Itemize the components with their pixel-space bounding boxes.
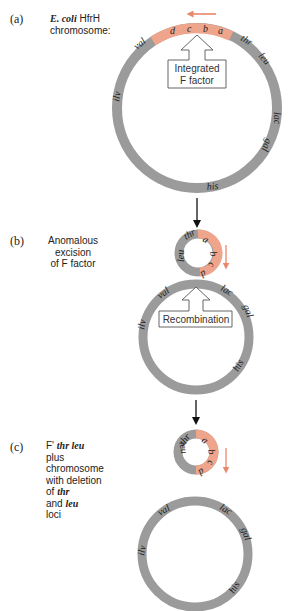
gene-his: his bbox=[206, 180, 219, 192]
gene-leu: leu bbox=[177, 441, 190, 455]
gene-lac: lac bbox=[272, 112, 283, 125]
gene-leu: leu bbox=[175, 250, 186, 262]
gene-c: c bbox=[187, 23, 192, 34]
callout-label-line1: Integrated bbox=[174, 63, 219, 74]
integrated-f-callout: Integrated F factor bbox=[168, 35, 226, 88]
diagram-canvas: d c b a val thr leu lac gal his ilv Inte… bbox=[0, 0, 289, 611]
recombination-label: Recombination bbox=[163, 314, 230, 325]
gene-b: b bbox=[203, 23, 208, 34]
gene-a: a bbox=[218, 25, 223, 36]
callout-label-line2: F factor bbox=[180, 75, 215, 86]
